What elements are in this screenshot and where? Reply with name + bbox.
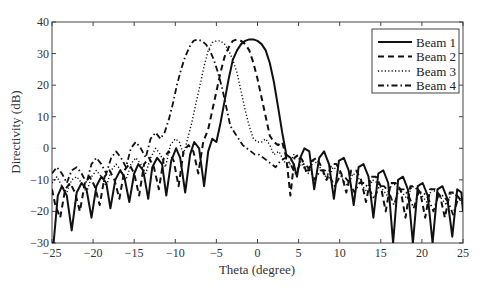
y-tick-label: −10: [30, 173, 49, 187]
x-tick-label: −20: [84, 246, 103, 260]
x-tick-label: 20: [416, 246, 428, 260]
x-axis-label: Theta (degree): [219, 262, 295, 277]
legend: Beam 1Beam 2Beam 3Beam 4: [372, 29, 459, 93]
legend-label-beam-4: Beam 4: [416, 78, 457, 93]
y-tick-label: 40: [37, 15, 49, 29]
y-tick-label: −20: [30, 204, 49, 218]
x-tick-label: 25: [457, 246, 469, 260]
x-tick-label: 5: [296, 246, 302, 260]
x-tick-label: 10: [334, 246, 346, 260]
y-tick-label: 20: [37, 78, 49, 92]
y-tick-label: −30: [30, 236, 49, 250]
y-tick-label: 0: [43, 141, 49, 155]
legend-label-beam-1: Beam 1: [416, 35, 456, 50]
y-tick-label: 10: [37, 110, 49, 124]
x-tick-label: 15: [375, 246, 387, 260]
x-tick-label: −5: [210, 246, 223, 260]
directivity-chart: −25−20−15−10−50510152025 −30−20−10010203…: [0, 0, 485, 290]
y-tick-label: 30: [37, 47, 49, 61]
legend-label-beam-2: Beam 2: [416, 49, 456, 64]
x-tick-label: −10: [166, 246, 185, 260]
x-tick-label: 0: [255, 246, 261, 260]
y-axis-label: Directivity (dB): [8, 90, 23, 173]
x-tick-label: −15: [125, 246, 144, 260]
legend-label-beam-3: Beam 3: [416, 64, 456, 79]
